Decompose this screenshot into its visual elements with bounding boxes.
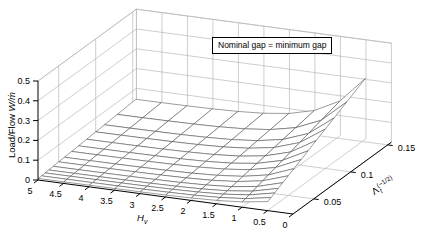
tick-label: 0.5 [253, 217, 266, 227]
annotation-box: Nominal gap = minimum gap [212, 37, 332, 54]
surface-plot-figure: 54.543.532.521.510.500.050.10.1500.10.20… [0, 0, 436, 247]
x-axis-label: Hv [137, 212, 147, 225]
tick-label: 0.5 [17, 76, 30, 86]
x-axis-label-sub: v [144, 218, 148, 225]
z-axis-label-text: Load/Flow [6, 112, 17, 158]
tick-label: 0 [282, 220, 287, 230]
tick-label: 0.3 [17, 116, 30, 126]
tick-label: 3 [129, 200, 134, 210]
tick-label: 0.15 [398, 143, 416, 153]
z-axis-label: Load/Flow W/ṁ [6, 92, 17, 158]
tick-label: 4.5 [49, 189, 62, 199]
tick-label: 3.5 [100, 196, 113, 206]
tick-label: 2 [180, 206, 185, 216]
tick-label: 0 [25, 175, 30, 185]
tick-label: 0.05 [324, 197, 342, 207]
tick-label: 0.1 [361, 170, 374, 180]
x-axis-label-base: H [137, 212, 144, 223]
z-axis-label-math: W/ṁ [6, 92, 17, 112]
tick-label: 0.2 [17, 135, 30, 145]
tick-label: 2.5 [151, 203, 164, 213]
tick-label: 1.5 [202, 210, 215, 220]
tick-label: 4 [78, 193, 83, 203]
tick-label: 0.4 [17, 96, 30, 106]
tick-label: 1 [231, 213, 236, 223]
tick-label: 5 [27, 186, 32, 196]
tick-label: 0.1 [17, 155, 30, 165]
